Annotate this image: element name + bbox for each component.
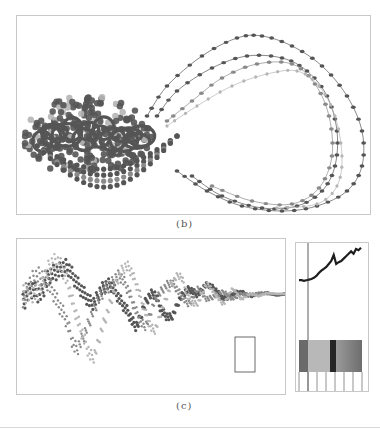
caption-c: (c) [176, 400, 192, 411]
detail-chart [296, 243, 368, 391]
timeseries-chart [17, 239, 285, 394]
panel-c-timeseries [16, 238, 286, 395]
caption-b: (b) [176, 218, 193, 229]
panel-b-phase-plot [16, 15, 371, 215]
panel-c-detail [295, 242, 369, 392]
page-divider [0, 427, 380, 428]
phase-trajectory-chart [17, 16, 370, 214]
